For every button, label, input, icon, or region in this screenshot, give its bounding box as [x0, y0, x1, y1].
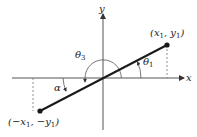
x-axis-label: x — [186, 73, 192, 83]
y-axis-label: y — [99, 4, 105, 14]
point-p2-label: (−x1, −y1) — [8, 117, 59, 129]
point-p1 — [164, 42, 169, 47]
point-p2 — [37, 108, 42, 113]
alpha-arc — [63, 78, 66, 91]
point-p1-label: (x1, y1) — [150, 28, 184, 40]
theta3-label: θ3 — [75, 50, 86, 62]
alpha-label: α — [54, 83, 61, 93]
diagram-canvas: x y (x1, y1) (−x1, −y1) θ1 θ3 α — [0, 0, 197, 137]
theta1-arc — [138, 62, 142, 78]
theta1-label: θ1 — [143, 57, 154, 69]
